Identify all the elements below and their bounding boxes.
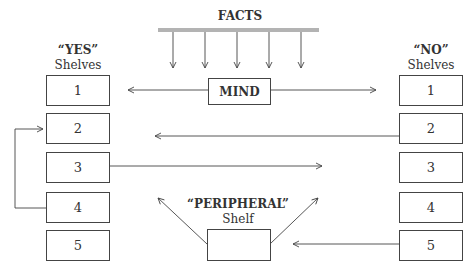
yes-shelf-4: 4 [46,192,110,223]
yes-heading: “YES” Shelves [38,43,118,73]
peripheral-heading-subtitle: Shelf [183,212,293,227]
yes-heading-subtitle: Shelves [38,58,118,73]
mind-box: MIND [208,78,271,105]
no-shelf-1: 1 [399,75,463,106]
no-shelf-2: 2 [399,113,463,144]
peripheral-heading-title: “PERIPHERAL” [183,197,293,212]
yes4-to-yes2-arrow [15,129,46,208]
no-heading: “NO” Shelves [391,43,471,73]
peripheral-shelf [207,229,271,261]
facts-title: FACTS [200,9,280,24]
yes-shelf-5: 5 [46,230,110,261]
peripheral-heading: “PERIPHERAL” Shelf [183,197,293,227]
yes-shelf-3: 3 [46,152,110,183]
no-shelf-5: 5 [399,230,463,261]
facts-arrows [173,32,301,68]
no-shelf-4: 4 [399,192,463,223]
no-shelf-3: 3 [399,152,463,183]
facts-bar [158,28,319,32]
yes-shelf-2: 2 [46,113,110,144]
no-heading-subtitle: Shelves [391,58,471,73]
no-heading-title: “NO” [391,43,471,58]
yes-heading-title: “YES” [38,43,118,58]
yes-shelf-1: 1 [46,75,110,106]
